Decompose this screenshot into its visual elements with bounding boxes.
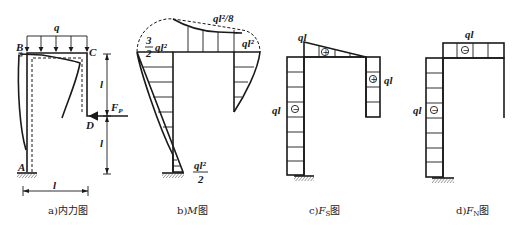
svg-text:2: 2 bbox=[145, 47, 152, 59]
svg-text:+: + bbox=[323, 48, 330, 57]
svg-text:−: − bbox=[293, 105, 300, 114]
beam-deflection-curve bbox=[20, 54, 80, 118]
dim-label-width: l bbox=[53, 179, 57, 191]
load-label-q: q bbox=[54, 21, 60, 33]
caption-b: b)M图 bbox=[177, 205, 208, 216]
caption-c: c)FS图 bbox=[309, 205, 340, 218]
label-right-top: ql² bbox=[242, 37, 255, 49]
structural-figure: q FP B C D A l bbox=[0, 0, 520, 230]
node-label-d: D bbox=[85, 119, 94, 131]
column-deflection-curve bbox=[18, 55, 26, 150]
node-label-a: A bbox=[17, 161, 25, 173]
frame-outline bbox=[304, 57, 366, 175]
left-column-axial bbox=[426, 58, 443, 177]
svg-text:−: − bbox=[432, 106, 439, 115]
label-left-value: ql bbox=[272, 104, 282, 116]
fixed-support-b bbox=[162, 173, 184, 178]
fixed-support-c bbox=[294, 176, 314, 181]
deformed-shape-dashed bbox=[32, 58, 82, 172]
frame-outline bbox=[443, 58, 504, 177]
fixed-support-a bbox=[17, 173, 37, 178]
svg-text:3: 3 bbox=[145, 34, 152, 46]
svg-text:ql²: ql² bbox=[155, 41, 168, 53]
left-column-shear bbox=[287, 57, 304, 175]
label-mid-span: ql²/8 bbox=[213, 12, 234, 24]
fixed-support-d bbox=[432, 178, 454, 183]
panel-b-moment-diagram: 3 2 ql² ql²/8 ql² ql² 2 b)M图 bbox=[137, 12, 260, 216]
frame-outline bbox=[173, 52, 234, 172]
panel-c-shear-diagram: + + − ql ql ql c)FS图 bbox=[272, 31, 394, 218]
label-beam-value: ql bbox=[465, 28, 475, 40]
label-right-value: ql bbox=[384, 74, 394, 86]
panel-d-axial-diagram: − − ql ql d)FN图 bbox=[413, 28, 504, 218]
svg-text:−: − bbox=[463, 46, 470, 55]
force-label: FP bbox=[110, 101, 123, 115]
label-left-value: ql bbox=[413, 104, 423, 116]
frame-members bbox=[27, 53, 97, 172]
dim-label-lower: l bbox=[100, 137, 104, 149]
label-base: ql² 2 bbox=[193, 159, 208, 185]
label-left-top: 3 2 ql² bbox=[145, 34, 168, 59]
beam-axial bbox=[443, 43, 504, 58]
svg-text:+: + bbox=[371, 75, 378, 84]
caption-a: a)内力图 bbox=[48, 204, 88, 216]
node-label-c: C bbox=[89, 46, 97, 58]
label-beam-value: ql bbox=[298, 31, 308, 43]
svg-text:ql²: ql² bbox=[194, 159, 207, 171]
caption-d: d)FN图 bbox=[456, 205, 489, 218]
svg-text:2: 2 bbox=[197, 173, 204, 185]
node-label-b: B bbox=[15, 41, 23, 53]
distributed-load-arrows bbox=[27, 36, 87, 51]
dim-label-upper: l bbox=[100, 78, 104, 90]
vertical-dimension bbox=[103, 54, 111, 174]
panel-a-frame-loading: q FP B C D A l bbox=[15, 21, 128, 216]
